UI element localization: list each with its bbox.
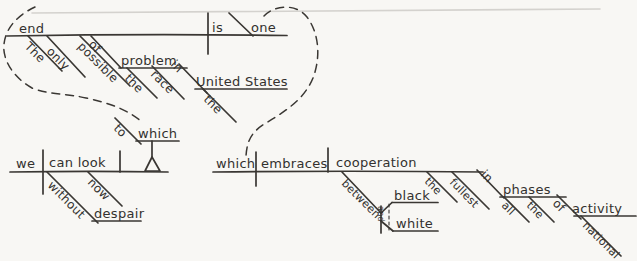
word-object-cooperation: cooperation — [336, 156, 417, 169]
fork-arm-lower — [381, 221, 393, 231]
word-activity: activity — [572, 202, 622, 215]
pedestal-triangle — [145, 157, 160, 171]
word-phases: phases — [503, 183, 551, 196]
word-subject-end: end — [19, 22, 44, 35]
word-subject-which-2: which — [216, 157, 255, 170]
word-verb-can-look: can look — [49, 156, 106, 169]
word-verb-is: is — [212, 21, 223, 34]
word-pred-noun-one: one — [251, 21, 276, 34]
word-white: white — [396, 217, 433, 230]
main-base-line — [7, 35, 287, 36]
sentence-diagram: end is one The only possible of problem … — [0, 0, 637, 261]
word-despair: despair — [94, 207, 144, 220]
word-black: black — [394, 189, 430, 202]
word-conj-and: and — [376, 206, 384, 222]
word-subject-we: we — [16, 157, 35, 170]
clause2-base-line — [213, 171, 483, 172]
word-united-states: United States — [196, 75, 288, 88]
predicate-noun-slash — [229, 13, 253, 36]
word-which-pedestal: which — [138, 127, 177, 140]
faint-page-rule — [32, 9, 600, 13]
word-verb-embraces: embraces — [261, 157, 328, 170]
